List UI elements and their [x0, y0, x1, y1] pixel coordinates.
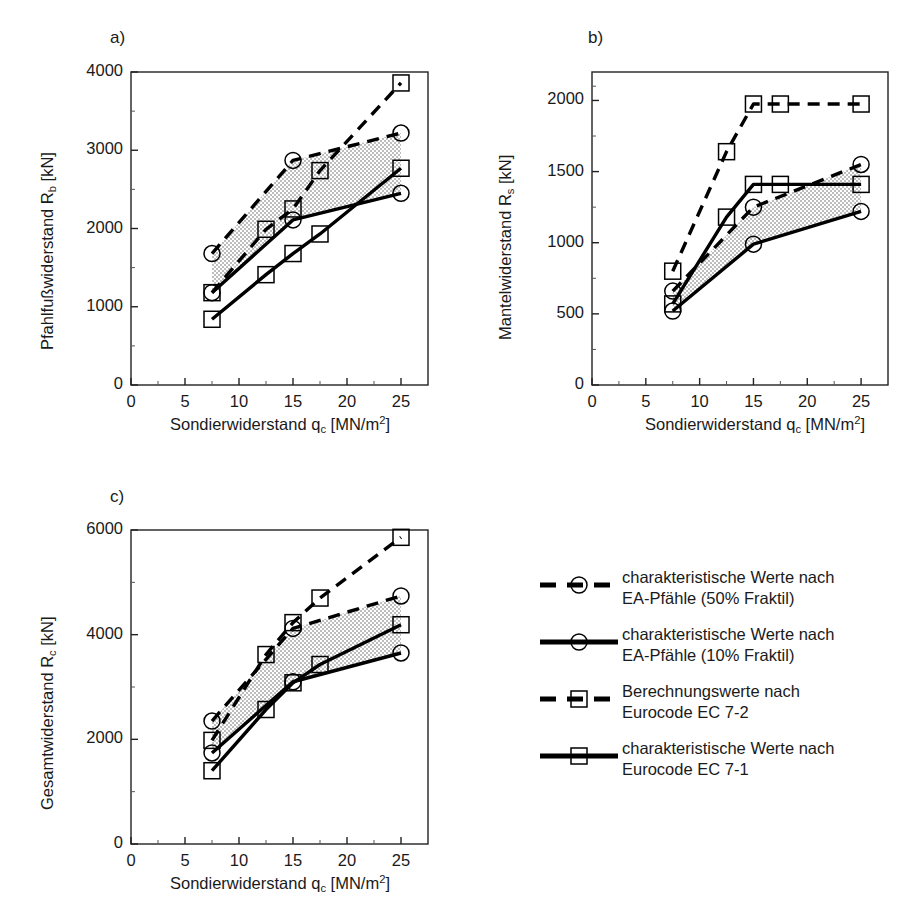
y-tick-label: 4000: [53, 624, 123, 643]
legend-label: Berechnungswerte nach Eurocode EC 7-2: [622, 680, 800, 723]
x-tick-label: 25: [376, 851, 426, 870]
panel-label-c: c): [110, 487, 124, 507]
chart-panel-b: b) Mantelwiderstand Rs [kN] Sondierwider…: [460, 0, 920, 460]
legend-item: Berechnungswerte nach Eurocode EC 7-2: [536, 680, 908, 723]
legend-item: charakteristische Werte nach EA-Pfähle (…: [536, 566, 908, 609]
x-tick-label: 0: [106, 851, 156, 870]
y-tick-label: 4000: [53, 61, 123, 80]
legend-item: charakteristische Werte nach EA-Pfähle (…: [536, 623, 908, 666]
x-tick-label: 25: [836, 392, 886, 411]
x-tick-label: 5: [160, 851, 210, 870]
x-tick-label: 5: [160, 392, 210, 411]
y-tick-label: 6000: [53, 519, 123, 538]
x-tick-label: 0: [106, 392, 156, 411]
y-tick-label: 2000: [53, 728, 123, 747]
y-tick-label: 0: [514, 374, 584, 393]
legend: charakteristische Werte nach EA-Pfähle (…: [536, 566, 908, 794]
y-tick-label: 1500: [514, 161, 584, 180]
x-tick-label: 20: [322, 851, 372, 870]
y-tick-label: 1000: [53, 296, 123, 315]
chart-panel-a: a) Pfahlfußwiderstand Rb [kN] Sondierwid…: [0, 0, 450, 460]
y-axis-label-a: Pfahlfußwiderstand Rb [kN]: [38, 152, 57, 350]
x-tick-label: 10: [214, 392, 264, 411]
panel-label-a: a): [110, 28, 125, 48]
x-axis-label-b: Sondierwiderstand qc [MN/m2]: [600, 415, 910, 434]
x-tick-label: 15: [268, 392, 318, 411]
y-tick-label: 0: [53, 374, 123, 393]
x-tick-label: 10: [214, 851, 264, 870]
legend-key-dashed-circle-icon: [536, 566, 622, 604]
x-tick-label: 15: [268, 851, 318, 870]
x-tick-label: 20: [322, 392, 372, 411]
legend-key-solid-square-icon: [536, 737, 622, 775]
y-tick-label: 3000: [53, 139, 123, 158]
x-tick-label: 0: [567, 392, 617, 411]
y-tick-label: 0: [53, 833, 123, 852]
y-tick-label: 1000: [514, 232, 584, 251]
chart-panel-c: c) Gesamtwiderstand Rc [kN] Sondierwider…: [0, 462, 450, 921]
x-tick-label: 10: [675, 392, 725, 411]
legend-key-dashed-square-icon: [536, 680, 622, 718]
y-tick-label: 500: [514, 303, 584, 322]
y-tick-label: 2000: [53, 218, 123, 237]
x-axis-label-c: Sondierwiderstand qc [MN/m2]: [130, 874, 430, 893]
legend-label: charakteristische Werte nach EA-Pfähle (…: [622, 566, 834, 609]
legend-key-solid-circle-icon: [536, 623, 622, 661]
y-tick-label: 2000: [514, 89, 584, 108]
x-tick-label: 15: [728, 392, 778, 411]
legend-item: charakteristische Werte nach Eurocode EC…: [536, 737, 908, 780]
x-tick-label: 20: [782, 392, 832, 411]
y-axis-label-c: Gesamtwiderstand Rc [kN]: [38, 616, 57, 810]
y-axis-label-b: Mantelwiderstand Rs [kN]: [496, 155, 515, 340]
panel-label-b: b): [588, 28, 603, 48]
x-axis-label-a: Sondierwiderstand qc [MN/m2]: [130, 415, 430, 434]
legend-label: charakteristische Werte nach Eurocode EC…: [622, 737, 834, 780]
legend-label: charakteristische Werte nach EA-Pfähle (…: [622, 623, 834, 666]
x-tick-label: 25: [376, 392, 426, 411]
x-tick-label: 5: [621, 392, 671, 411]
